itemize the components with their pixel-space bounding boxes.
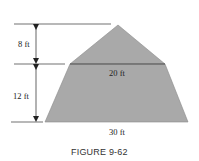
bottom-width-label: 30 ft	[109, 127, 125, 137]
triangle-height-label: 8 ft	[18, 39, 30, 49]
figure-diagram: 8 ft 12 ft 20 ft 30 ft FIGURE 9-62	[0, 0, 199, 161]
top-width-label: 20 ft	[109, 68, 125, 78]
triangle-region	[70, 25, 165, 64]
figure-caption: FIGURE 9-62	[71, 147, 128, 157]
trapezoid-height-label: 12 ft	[13, 91, 29, 101]
